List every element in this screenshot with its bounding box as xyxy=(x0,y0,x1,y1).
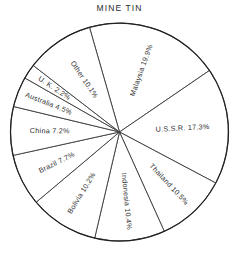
pie-chart-svg: Malaysia 19.9%U.S.S.R. 17.3%Thailand 10.… xyxy=(0,0,239,256)
pie-slice-label-china: China 7.2% xyxy=(30,126,70,135)
pie-chart-figure: MINE TIN Malaysia 19.9%U.S.S.R. 17.3%Tha… xyxy=(0,0,239,256)
